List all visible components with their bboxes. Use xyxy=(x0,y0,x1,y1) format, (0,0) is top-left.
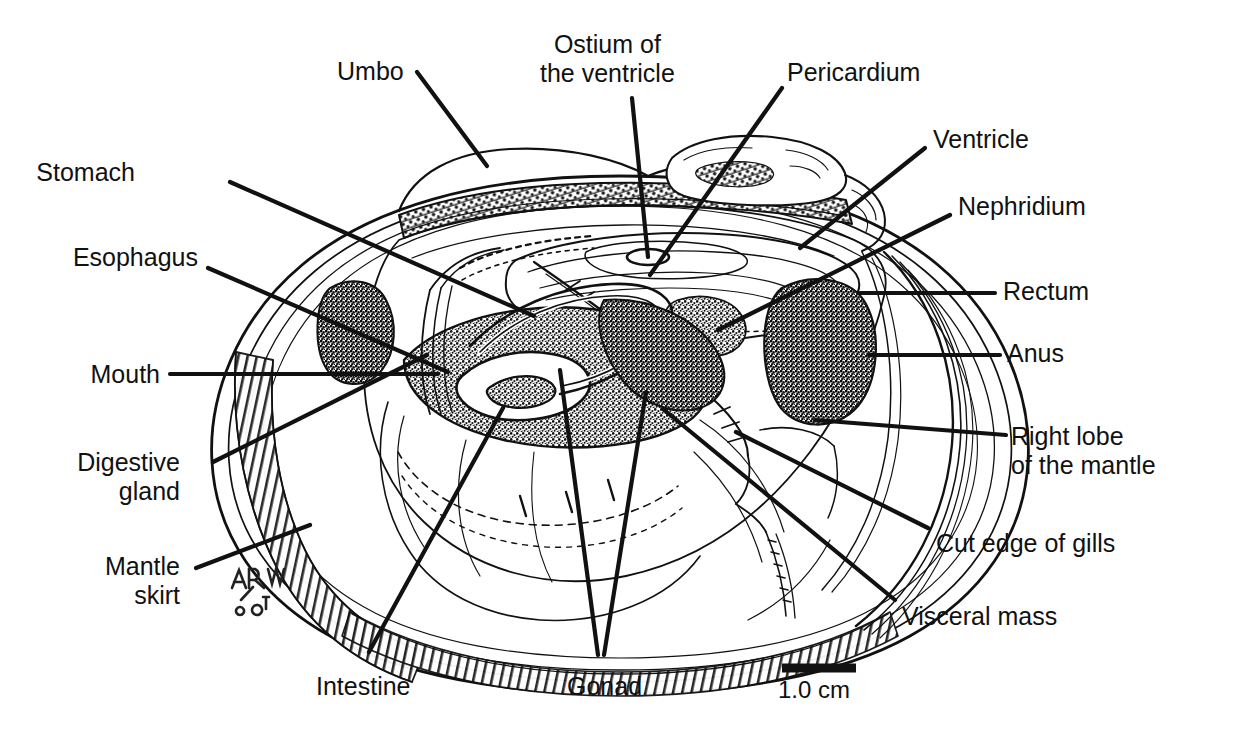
label-gonad: Gonad xyxy=(567,672,642,701)
label-anus: Anus xyxy=(1007,339,1064,368)
label-pericardium: Pericardium xyxy=(787,58,920,87)
leader-intestine xyxy=(369,408,503,652)
leader-umbo xyxy=(417,72,487,166)
label-umbo: Umbo xyxy=(337,57,404,86)
label-digestive-gland: Digestive gland xyxy=(77,448,180,506)
figure-canvas: Stomach Esophagus Mouth Digestive gland … xyxy=(0,0,1243,754)
label-rectum: Rectum xyxy=(1003,277,1089,306)
pericardium-dorsal-bump xyxy=(667,136,846,205)
scale-bar-caption: 1.0 cm xyxy=(778,676,850,704)
label-mouth: Mouth xyxy=(91,360,160,389)
label-visceral-mass: Visceral mass xyxy=(902,602,1057,631)
label-intestine: Intestine xyxy=(316,672,411,701)
label-ventricle: Ventricle xyxy=(933,125,1029,154)
leader-right-lobe xyxy=(815,420,1006,435)
label-ostium-of-ventricle: Ostium of the ventricle xyxy=(540,30,675,88)
label-mantle-skirt: Mantle skirt xyxy=(105,552,180,610)
label-esophagus: Esophagus xyxy=(73,243,198,272)
label-nephridium: Nephridium xyxy=(958,192,1086,221)
leader-cut-edge-of-gills xyxy=(736,432,928,528)
label-cut-edge-of-gills: Cut edge of gills xyxy=(936,529,1115,558)
shell-outline-group xyxy=(170,72,1028,696)
clam-anatomy-drawing xyxy=(0,0,1243,754)
label-right-lobe-of-mantle: Right lobe of the mantle xyxy=(1011,422,1156,480)
label-stomach: Stomach xyxy=(36,158,135,187)
artist-signature-mark xyxy=(232,569,284,615)
